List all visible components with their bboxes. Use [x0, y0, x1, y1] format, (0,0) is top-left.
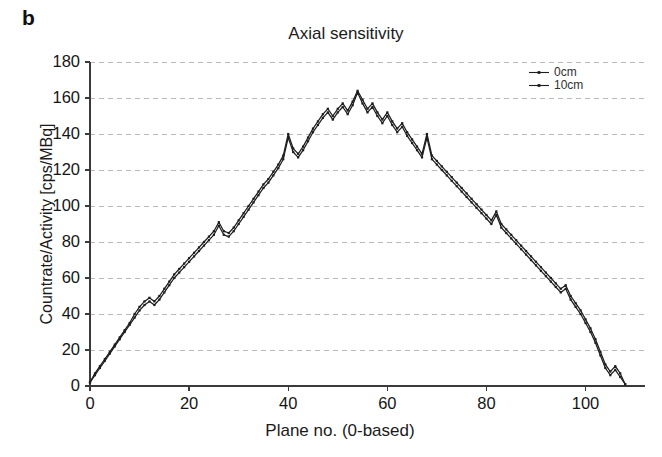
- legend-marker-icon: [528, 67, 550, 78]
- y-tick-label: 160: [34, 88, 80, 107]
- axis-lines: [90, 62, 645, 386]
- legend-item: 10cm: [528, 79, 583, 92]
- legend-label: 10cm: [554, 79, 583, 92]
- x-tick-label: 40: [264, 394, 312, 413]
- y-tick-label: 60: [34, 268, 80, 287]
- y-tick-label: 80: [34, 232, 80, 251]
- y-tick-label: 40: [34, 304, 80, 323]
- x-tick-label: 60: [363, 394, 411, 413]
- legend-marker-icon: [528, 80, 550, 91]
- data-series-group: [89, 90, 626, 386]
- y-tick-label: 120: [34, 160, 80, 179]
- y-tick-label: 100: [34, 196, 80, 215]
- y-tick-label: 180: [34, 52, 80, 71]
- y-tick-label: 140: [34, 124, 80, 143]
- figure-panel-b: b Axial sensitivity Countrate/Activity […: [0, 0, 662, 457]
- x-tick-label: 0: [66, 394, 114, 413]
- x-tick-label: 80: [462, 394, 510, 413]
- gridlines: [90, 62, 645, 350]
- y-tick-label: 0: [34, 376, 80, 395]
- x-tick-label: 100: [562, 394, 610, 413]
- chart-legend: 0cm10cm: [528, 66, 583, 92]
- y-tick-label: 20: [34, 340, 80, 359]
- x-tick-label: 20: [165, 394, 213, 413]
